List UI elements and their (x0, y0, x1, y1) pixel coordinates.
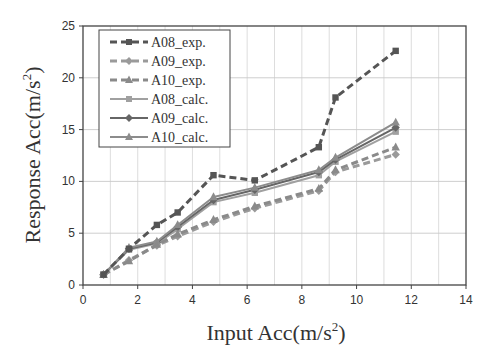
square-marker-icon (392, 48, 398, 54)
y-tick-label: 10 (62, 174, 76, 188)
square-marker-icon (316, 144, 322, 150)
diamond-marker-icon (391, 150, 399, 158)
x-axis-label: Input Acc(m/s2) (206, 319, 345, 345)
x-tick-label: 12 (405, 293, 419, 307)
x-tick-label: 2 (134, 293, 141, 307)
x-tick-label: 4 (189, 293, 196, 307)
y-tick-label: 15 (62, 123, 76, 137)
y-tick-label: 25 (62, 19, 76, 33)
square-marker-icon (126, 39, 132, 45)
square-marker-icon (210, 172, 216, 178)
square-marker-icon (100, 271, 106, 277)
line-chart: 024681012140510152025 A08_exp.A09_exp.A1… (0, 0, 489, 362)
x-tick-label: 8 (299, 293, 306, 307)
legend-label: A10_exp. (151, 73, 206, 88)
triangle-marker-icon (391, 118, 399, 126)
square-marker-icon (126, 96, 132, 102)
x-tick-label: 0 (80, 293, 87, 307)
square-marker-icon (252, 177, 258, 183)
series-a08-calc (100, 128, 399, 277)
legend-label: A08_calc. (151, 92, 208, 107)
legend: A08_exp.A09_exp.A10_exp.A08_calc.A09_cal… (99, 30, 230, 147)
legend-label: A10_calc. (151, 130, 208, 145)
series-line (104, 154, 396, 274)
y-tick-label: 20 (62, 71, 76, 85)
legend-label: A08_exp. (151, 35, 206, 50)
square-marker-icon (126, 246, 132, 252)
series-line (104, 132, 396, 275)
x-tick-label: 10 (350, 293, 364, 307)
y-tick-label: 5 (68, 226, 75, 240)
square-marker-icon (174, 209, 180, 215)
square-marker-icon (154, 222, 160, 228)
series-a09-exp (99, 150, 400, 279)
x-tick-label: 14 (459, 293, 473, 307)
y-tick-label: 0 (68, 278, 75, 292)
triangle-marker-icon (331, 165, 339, 173)
x-tick-label: 6 (244, 293, 251, 307)
square-marker-icon (332, 94, 338, 100)
legend-label: A09_calc. (151, 111, 208, 126)
triangle-marker-icon (391, 143, 399, 151)
series-line (104, 128, 396, 275)
legend-label: A09_exp. (151, 54, 206, 69)
y-axis-label: Response Acc(m/s2) (19, 67, 45, 244)
